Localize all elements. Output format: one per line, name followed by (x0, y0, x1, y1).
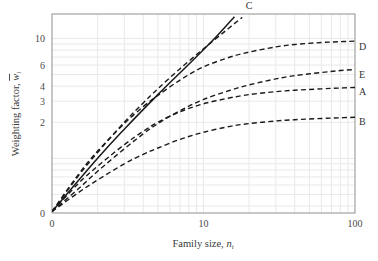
series-label-E: E (359, 69, 365, 80)
weighting-factor-chart: 010100 0234610 ABCDE Family size, ni Wei… (0, 0, 378, 261)
y-tick-6: 6 (40, 60, 45, 71)
series-label-A: A (359, 86, 367, 97)
y-tick-10: 10 (35, 33, 45, 44)
y-axis-title: Weighting factor, wi (10, 72, 24, 156)
y-tick-2: 2 (40, 117, 45, 128)
series-label-B: B (359, 116, 366, 127)
y-tick-0: 0 (40, 208, 45, 219)
series-label-D: D (359, 41, 366, 52)
x-tick-100: 100 (348, 218, 363, 229)
x-tick-0: 0 (50, 218, 55, 229)
x-tick-10: 10 (199, 218, 209, 229)
y-tick-4: 4 (40, 81, 45, 92)
y-tick-3: 3 (40, 96, 45, 107)
chart-figure: 010100 0234610 ABCDE Family size, ni Wei… (0, 0, 378, 261)
series-label-C: C (246, 0, 253, 11)
